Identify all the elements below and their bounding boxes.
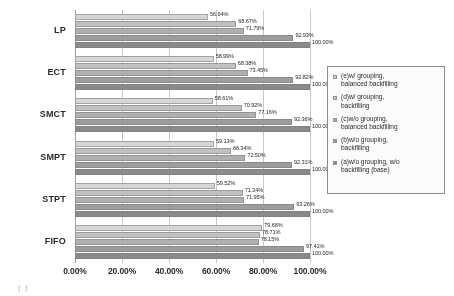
category-axis: LPECTSMCTSMPTSTPTFIFO xyxy=(0,10,72,263)
bar xyxy=(75,155,245,161)
bar-value-label: 68.38% xyxy=(238,60,256,66)
bar-value-label: 92.31% xyxy=(294,159,312,165)
bar xyxy=(75,42,310,48)
bar-group: 79.68%78.71%78.15%97.41%100.00% xyxy=(75,225,310,260)
bar xyxy=(75,246,304,252)
bar xyxy=(75,190,243,196)
bar-row: 58.61% xyxy=(75,98,310,104)
bar-row: 100.00% xyxy=(75,126,310,132)
legend-label: (a)w/o grouping, w/o backfilling (base) xyxy=(341,158,400,174)
bar-group: 58.99%68.38%73.45%92.82%100.00% xyxy=(75,56,310,91)
bar-value-label: 59.52% xyxy=(217,180,235,186)
plot-area: 56.64%68.67%71.79%92.93%100.00%58.99%68.… xyxy=(75,10,310,263)
legend-swatch-icon xyxy=(333,118,337,122)
bar xyxy=(75,70,248,76)
bar xyxy=(75,253,310,259)
bar-value-label: 78.71% xyxy=(262,229,280,235)
bar-row: 59.13% xyxy=(75,141,310,147)
bar-row: 100.00% xyxy=(75,84,310,90)
bar-value-label: 71.34% xyxy=(245,187,263,193)
x-axis-tick-label: 100.00% xyxy=(294,266,327,276)
bar-value-label: 93.26% xyxy=(296,201,314,207)
legend-item[interactable]: (e)w/ grouping, balanced backfilling xyxy=(333,72,440,88)
bar-row: 100.00% xyxy=(75,211,310,217)
category-label-smpt: SMPT xyxy=(40,152,66,162)
bar-row: 68.67% xyxy=(75,21,310,27)
legend-item[interactable]: (b)w/o grouping, backfilling xyxy=(333,136,440,152)
bar-value-label: 100.00% xyxy=(312,250,333,256)
bar-value-label: 78.15% xyxy=(261,236,279,242)
bar-row: 100.00% xyxy=(75,169,310,175)
bar-row: 100.00% xyxy=(75,253,310,259)
bar-value-label: 71.95% xyxy=(246,194,264,200)
legend-label: (c)w/o grouping, balanced backfilling xyxy=(341,115,398,131)
bar xyxy=(75,56,214,62)
bar xyxy=(75,183,215,189)
bar-chart: LPECTSMCTSMPTSTPTFIFO 56.64%68.67%71.79%… xyxy=(0,0,454,296)
bar-value-label: 66.34% xyxy=(233,145,251,151)
legend-label: (e)w/ grouping, balanced backfilling xyxy=(341,72,398,88)
legend-swatch-icon xyxy=(333,96,337,100)
bar xyxy=(75,232,260,238)
bar xyxy=(75,98,213,104)
bar-row: 78.15% xyxy=(75,239,310,245)
bar xyxy=(75,105,242,111)
bar xyxy=(75,225,262,231)
legend-label: (b)w/o grouping, backfilling xyxy=(341,136,388,152)
bar-value-label: 71.79% xyxy=(246,25,264,31)
bar xyxy=(75,141,214,147)
bar-group: 59.13%66.34%72.50%92.31%100.00% xyxy=(75,141,310,176)
bar-value-label: 100.00% xyxy=(312,39,333,45)
bar-value-label: 72.50% xyxy=(247,152,265,158)
chart-legend: (e)w/ grouping, balanced backfilling(d)w… xyxy=(327,66,445,194)
bar-row: 92.36% xyxy=(75,119,310,125)
bar xyxy=(75,162,292,168)
bar xyxy=(75,21,236,27)
bar-row: 71.79% xyxy=(75,28,310,34)
legend-item[interactable]: (c)w/o grouping, balanced backfilling xyxy=(333,115,440,131)
bar-group: 59.52%71.34%71.95%93.26%100.00% xyxy=(75,183,310,218)
bar-row: 59.52% xyxy=(75,183,310,189)
bar-value-label: 100.00% xyxy=(312,208,333,214)
bar xyxy=(75,204,294,210)
x-axis-tick-label: 0.00% xyxy=(63,266,87,276)
bar-value-label: 58.61% xyxy=(215,95,233,101)
bar xyxy=(75,35,293,41)
bar-row: 73.45% xyxy=(75,70,310,76)
gridline xyxy=(310,10,311,263)
bar-value-label: 97.41% xyxy=(306,243,324,249)
bar-group: 58.61%70.92%77.16%92.36%100.00% xyxy=(75,98,310,133)
bar xyxy=(75,28,244,34)
bar xyxy=(75,239,259,245)
bar xyxy=(75,169,310,175)
category-label-stpt: STPT xyxy=(42,194,66,204)
bar-row: 92.31% xyxy=(75,162,310,168)
bar-row: 97.41% xyxy=(75,246,310,252)
bar xyxy=(75,84,310,90)
category-label-smct: SMCT xyxy=(40,109,66,119)
bar-value-label: 92.82% xyxy=(295,74,313,80)
legend-item[interactable]: (d)w/ grouping, backfilling xyxy=(333,93,440,109)
x-axis-tick-label: 60.00% xyxy=(202,266,230,276)
bar-row: 72.50% xyxy=(75,155,310,161)
legend-item[interactable]: (a)w/o grouping, w/o backfilling (base) xyxy=(333,158,440,174)
x-axis-tick-label: 80.00% xyxy=(249,266,277,276)
bar xyxy=(75,197,244,203)
bar-value-label: 68.67% xyxy=(238,18,256,24)
bar-group: 56.64%68.67%71.79%92.93%100.00% xyxy=(75,14,310,49)
bar-row: 71.95% xyxy=(75,197,310,203)
bar-value-label: 56.64% xyxy=(210,11,228,17)
bar-row: 77.16% xyxy=(75,112,310,118)
bar-groups: 56.64%68.67%71.79%92.93%100.00%58.99%68.… xyxy=(75,10,310,263)
x-axis-tick-label: 40.00% xyxy=(155,266,183,276)
legend-swatch-icon xyxy=(333,161,337,165)
bar-value-label: 70.92% xyxy=(244,102,262,108)
caption-fragment: ( ) xyxy=(18,283,29,292)
bar xyxy=(75,148,231,154)
bar-row: 58.99% xyxy=(75,56,310,62)
bar-row: 68.38% xyxy=(75,63,310,69)
bar-row: 93.26% xyxy=(75,204,310,210)
legend-swatch-icon xyxy=(333,139,337,143)
bar-row: 92.93% xyxy=(75,35,310,41)
bar-row: 56.64% xyxy=(75,14,310,20)
